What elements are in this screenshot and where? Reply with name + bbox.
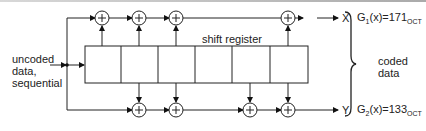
coded-data-label: coded data [378,55,408,79]
input-label: uncoded data, sequential [12,53,62,89]
register-label: shift register [202,33,262,45]
generator-g1: G1(x)=171OCT [357,11,422,28]
input-label-line2: data, [12,65,62,77]
output-x-label: X [342,12,349,24]
input-label-line1: uncoded [12,53,62,65]
shift-register [85,46,308,83]
output-y-label: Y [342,104,349,116]
junction-dot [65,63,69,67]
curly-brace [345,12,356,116]
generator-g2: G2(x)=133OCT [357,103,422,120]
input-label-line3: sequential [12,77,62,89]
